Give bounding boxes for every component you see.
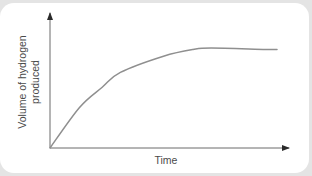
y-axis-label: Volume of hydrogen [16,35,28,129]
hydrogen-volume-curve [50,48,277,148]
y-axis-label-line2: produced [29,60,41,104]
line-chart: Volume of hydrogen produced Time [0,0,312,176]
x-axis-label: Time [155,154,178,166]
